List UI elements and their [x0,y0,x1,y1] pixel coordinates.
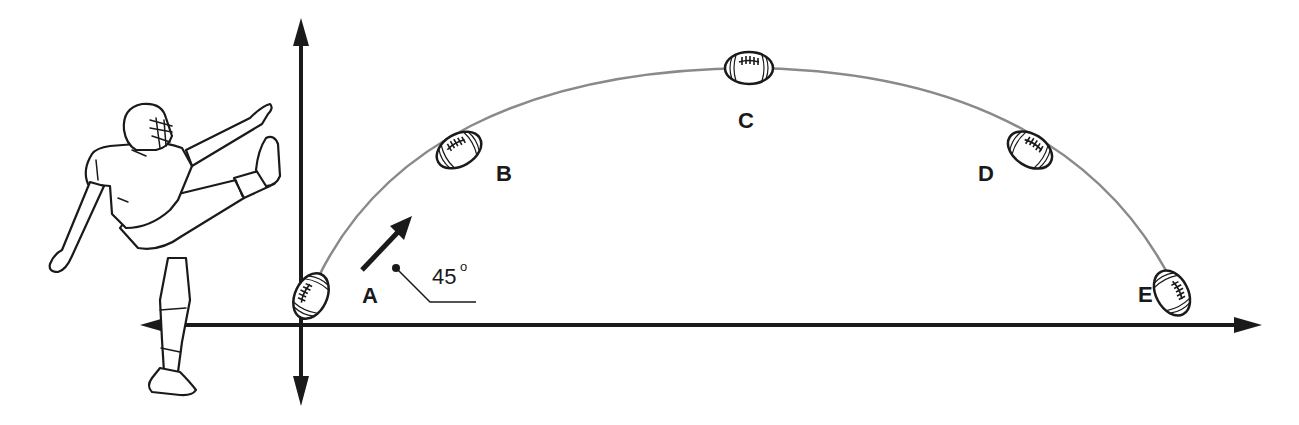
angle-label: 45 [432,264,456,289]
arrow-up-icon [293,18,309,46]
football-icon [1001,124,1059,177]
arrow-right-icon [1234,317,1262,333]
football-icon [286,267,335,324]
football-position-d: D [978,124,1059,186]
football-kicker-figure [50,104,280,395]
label-e: E [1138,282,1153,307]
projectile-diagram: 45 o A B C D [0,0,1299,425]
launch-direction: 45 o [362,216,476,302]
trajectory-arc [318,68,1172,282]
football-position-b: B [430,124,512,186]
football-icon [725,52,773,84]
label-c: C [738,108,754,133]
football-icon [430,124,488,176]
label-d: D [978,161,994,186]
degree-symbol: o [460,259,467,274]
football-icon [1147,264,1198,321]
vertical-axis [293,18,309,406]
label-a: A [362,283,378,308]
football-position-e: E [1138,264,1197,321]
football-position-c: C [725,52,773,133]
arrow-down-icon [293,376,309,406]
label-b: B [496,161,512,186]
